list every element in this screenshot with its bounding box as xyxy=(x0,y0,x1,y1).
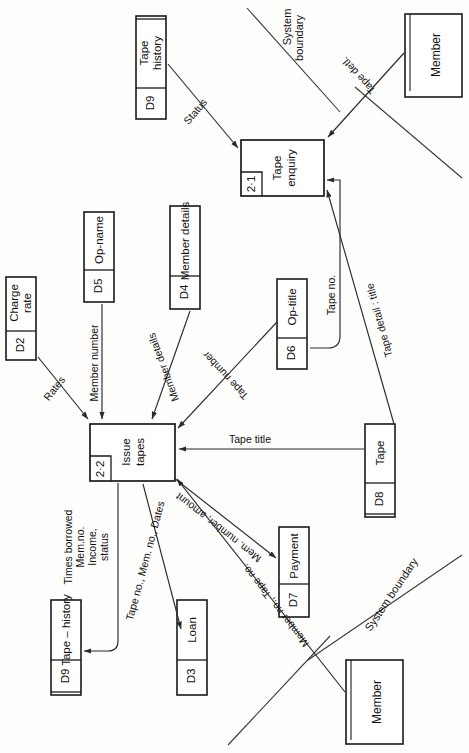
data-store-id: D9 xyxy=(144,96,156,111)
boundary-label-top-line1: System xyxy=(281,9,293,46)
data-store-id: D6 xyxy=(285,346,297,361)
flow-label-line3: Income, xyxy=(86,528,98,565)
process-label-line1: Tape xyxy=(271,156,283,181)
flow-member-details: Member details xyxy=(145,311,190,419)
data-store-id: D5 xyxy=(92,279,104,294)
data-store-label-line1: Member details xyxy=(179,201,191,280)
flow-label: Tape no. xyxy=(325,275,337,315)
system-boundary-bottom: System boundary xyxy=(308,555,462,660)
flow-status: Status xyxy=(168,64,238,148)
flow-tape-no-mem-no-dates: Tape no., Mem. no., Dates xyxy=(123,484,181,629)
process-id: 2·1 xyxy=(245,176,257,193)
flow-label-line4: status xyxy=(98,533,110,561)
data-store-id: D8 xyxy=(373,492,385,507)
data-store-id: D7 xyxy=(287,593,299,608)
data-store-label-line1: Op-title xyxy=(286,288,298,325)
data-store-id: D3 xyxy=(185,669,197,684)
flow-tape-number: Tape number xyxy=(178,322,277,428)
flow-member-number: Member number xyxy=(88,304,102,419)
flow-tape-detail-title: Tape detail : title xyxy=(327,190,394,424)
data-store-d4-member-details[interactable]: D4 Member details xyxy=(170,201,200,309)
boundary-label-top-line2: boundary xyxy=(293,15,305,61)
external-entity-member-top[interactable]: Member xyxy=(405,14,462,97)
data-store-d2-charge-rate[interactable]: D2 Charge rate xyxy=(6,277,36,360)
process-label-line2: tapes xyxy=(134,438,146,466)
external-entity-label: Member xyxy=(429,33,443,77)
boundary-label-bottom: System boundary xyxy=(362,555,420,633)
data-store-d9-tape-history[interactable]: D9 Tape history xyxy=(136,16,166,119)
process-label-line2: enquiry xyxy=(285,149,297,187)
dfd-svg: System boundary System boundary D9 Tape … xyxy=(0,0,469,753)
data-store-label-line1: Loan xyxy=(186,617,198,643)
data-store-id: D4 xyxy=(178,284,190,299)
data-store-d7-payment[interactable]: D7 Payment xyxy=(279,527,309,617)
flow-label: Tape no., Mem. no., Dates xyxy=(123,500,166,622)
flow-label: Tape title xyxy=(229,433,271,445)
data-store-label-line1: Tape xyxy=(138,41,150,66)
flow-tape-title: Tape title xyxy=(179,433,364,449)
data-store-label-line2: rate xyxy=(21,293,33,313)
flow-label: Member number xyxy=(88,324,100,402)
data-store-label-line1: Op-name xyxy=(93,216,105,264)
data-store-label-line1: Charge xyxy=(8,284,20,322)
flow-label: Tape number xyxy=(199,349,250,402)
flow-label: Tape detail : title xyxy=(363,282,394,359)
data-store-d5-op-name[interactable]: D5 Op-name xyxy=(84,212,114,302)
data-store-label-line1: Tape – history xyxy=(60,594,72,666)
dfd-canvas: System boundary System boundary D9 Tape … xyxy=(0,0,469,753)
process-2-2-issue-tapes[interactable]: 2·2 Issue tapes xyxy=(90,424,175,481)
data-store-d6-op-title[interactable]: D6 Op-title xyxy=(277,279,307,369)
flow-label-line1: Times borrowed xyxy=(62,509,74,584)
flow-label: Status xyxy=(181,96,209,127)
flow-tape-no: Tape no. xyxy=(310,180,340,348)
data-store-id: D9 xyxy=(59,669,71,684)
data-store-label-line1: Payment xyxy=(288,533,300,579)
flow-mem-number-amount: Mem. number, amount xyxy=(173,478,276,565)
data-store-label-line2: history xyxy=(151,36,163,70)
process-id: 2·2 xyxy=(94,461,106,478)
data-store-d8-tape[interactable]: D8 Tape xyxy=(365,424,395,517)
flow-label: Mem. number, amount xyxy=(173,491,263,565)
process-label-line1: Issue xyxy=(120,438,132,466)
external-entity-label: Member xyxy=(370,680,384,724)
flow-label: Tape detl. xyxy=(338,55,377,97)
flow-tape-detl: Tape detl. xyxy=(328,53,404,137)
system-boundary-lower-left xyxy=(228,636,330,745)
system-boundary-top: System boundary xyxy=(247,8,340,112)
data-store-d9-tape-history-bottom[interactable]: D9 Tape – history xyxy=(51,594,81,695)
data-store-d3-loan[interactable]: D3 Loan xyxy=(177,600,207,695)
data-store-id: D2 xyxy=(14,338,26,353)
data-store-label-line1: Tape xyxy=(374,441,386,466)
process-2-1-tape-enquiry[interactable]: 2·1 Tape enquiry xyxy=(241,140,324,196)
external-entity-member-bottom[interactable]: Member xyxy=(346,660,403,744)
flow-rates: Rates xyxy=(38,357,88,419)
system-boundary-upper-right xyxy=(355,87,462,178)
flow-label-line2: Mem.no. xyxy=(74,527,86,568)
flow-label: Member details xyxy=(145,332,181,404)
